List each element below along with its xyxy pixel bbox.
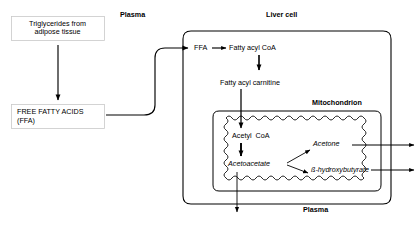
node-acetone: Acetone (313, 140, 339, 148)
diagram-canvas: Plasma Liver cell Plasma Mitochondrion T… (0, 0, 419, 228)
arrow-acetoacetate-to-beta-hydroxybutyrate (287, 165, 308, 173)
liver-cell-label: Liver cell (266, 11, 297, 19)
plasma-bottom-label: Plasma (303, 206, 328, 214)
free-fatty-acids-box-line2: (FFA) (17, 117, 35, 125)
mitochondrion-label: Mitochondrion (312, 99, 362, 107)
node-beta-hydroxybutyrate: ß-hydroxybutyrate (311, 166, 369, 174)
node-fatty-acyl-carnitine: Fatty acyl carnitine (220, 79, 280, 87)
plasma-top-label: Plasma (120, 11, 145, 19)
arrow-acetoacetate-to-acetone (287, 150, 310, 163)
liver-cell-membrane (183, 31, 391, 204)
connector-ffa-to-cell (106, 48, 188, 115)
triglycerides-box-line2: adipose tissue (11, 28, 104, 36)
node-ffa: FFA (194, 44, 207, 52)
node-acetoacetate: Acetoacetate (228, 160, 270, 168)
mitochondrion-outer-membrane (213, 111, 381, 191)
node-acetyl-coa: Acetyl CoA (232, 132, 270, 140)
free-fatty-acids-box-line1: FREE FATTY ACIDS (17, 108, 83, 116)
node-fatty-acyl-coa: Fatty acyl CoA (229, 44, 276, 52)
